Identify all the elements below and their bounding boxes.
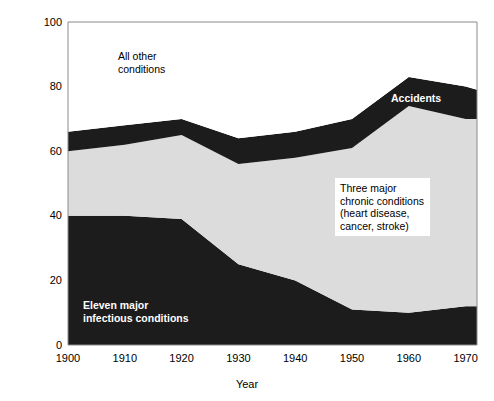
annotation-three-major-chronic: Three major chronic conditions (heart di…: [335, 178, 430, 236]
y-tick-label: 0: [36, 340, 62, 351]
x-tick-label: 1970: [444, 352, 488, 364]
y-tick-label: 60: [36, 146, 62, 157]
x-tick-label: 1910: [103, 352, 147, 364]
y-tick-label: 40: [36, 210, 62, 221]
annotation-eleven-major-infectious: Eleven major infectious conditions: [83, 299, 189, 324]
y-tick-label: 80: [36, 81, 62, 92]
x-tick-label: 1950: [330, 352, 374, 364]
y-tick-label: 20: [36, 275, 62, 286]
x-tick-label: 1920: [160, 352, 204, 364]
y-axis-ticks: 020406080100: [34, 0, 62, 401]
x-tick-label: 1900: [46, 352, 90, 364]
mortality-area-chart: Percentage of total mortality 0204060801…: [0, 0, 494, 401]
x-tick-label: 1930: [216, 352, 260, 364]
y-tick-label: 100: [36, 17, 62, 28]
annotation-all-other-conditions: All other conditions: [118, 50, 165, 75]
annotation-accidents: Accidents: [391, 92, 441, 105]
x-tick-label: 1940: [273, 352, 317, 364]
x-axis-title: Year: [0, 378, 494, 390]
x-tick-label: 1960: [387, 352, 431, 364]
